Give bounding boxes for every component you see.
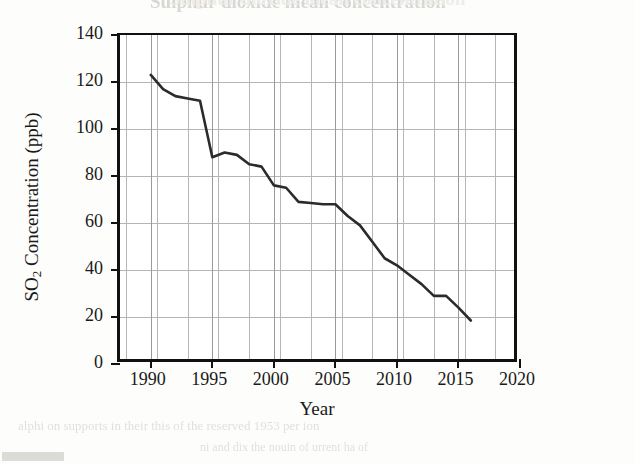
x-axis-tick-label: 2015 [437,370,473,388]
x-axis-tick-label: 2020 [499,370,535,388]
x-axis-tick-label: 1990 [130,370,166,388]
x-axis-title: Year [117,398,517,420]
x-axis-tick-label: 2010 [376,370,412,388]
x-axis-tick-label: 2000 [253,370,289,388]
x-axis-tick-label: 1995 [191,370,227,388]
x-axis-tick-labels: 1990199520002005201020152020 [0,0,635,464]
chart-figure: Sulphur dioxide mean concentration SO2 C… [0,0,635,464]
x-axis-tick-label: 2005 [314,370,350,388]
